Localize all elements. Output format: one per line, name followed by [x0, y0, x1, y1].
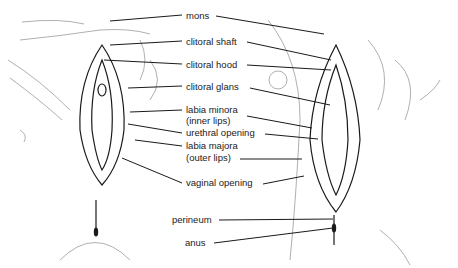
leader-vaginal-opening-left — [122, 158, 182, 183]
leader-urethral-opening-left — [128, 124, 182, 133]
leader-mons-left — [110, 15, 182, 21]
leader-clitoral-hood-right — [247, 65, 331, 70]
label-labia-minora-sub: (inner lips) — [186, 115, 230, 126]
label-perineum: perineum — [172, 214, 212, 225]
label-clitoral-shaft: clitoral shaft — [186, 36, 237, 47]
label-labia-minora: labia minora — [186, 104, 238, 115]
label-urethral-opening: urethral opening — [186, 127, 255, 138]
label-clitoral-glans: clitoral glans — [186, 81, 239, 92]
leader-labia-minora-right — [247, 116, 312, 128]
leader-clitoral-glans-left — [128, 86, 182, 88]
leader-clitoral-glans-right — [250, 88, 330, 105]
leader-anus — [214, 228, 333, 243]
leader-clitoral-hood-left — [104, 60, 182, 64]
label-mons: mons — [186, 10, 209, 21]
leader-clitoral-shaft-left — [110, 41, 182, 45]
label-vaginal-opening: vaginal opening — [186, 177, 253, 188]
leader-perineum — [219, 219, 333, 220]
leader-clitoral-shaft-right — [247, 42, 331, 60]
leader-labia-minora-left — [130, 110, 182, 112]
label-clitoral-hood: clitoral hood — [186, 59, 237, 70]
leader-urethral-opening-right — [265, 134, 318, 139]
label-labia-majora: labia majora — [186, 140, 238, 151]
leader-labia-majora-left — [135, 140, 182, 146]
leader-vaginal-opening-right — [263, 176, 304, 184]
anatomy-diagram: mons clitoral shaft clitoral hood clitor… — [0, 0, 458, 268]
label-anus: anus — [185, 237, 206, 248]
leader-mons-right — [216, 16, 324, 34]
label-labia-majora-sub: (outer lips) — [186, 152, 231, 163]
